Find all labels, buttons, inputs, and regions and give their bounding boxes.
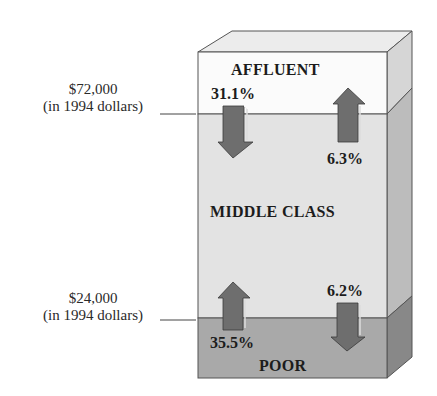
- threshold-amount: $24,000: [18, 290, 168, 307]
- flow-pct-poor-to-middle: 35.5%: [210, 334, 254, 352]
- threshold-amount: $72,000: [18, 81, 168, 98]
- threshold-label-24000: $24,000 (in 1994 dollars): [18, 290, 168, 324]
- threshold-note: (in 1994 dollars): [18, 98, 168, 115]
- side-middle: [387, 88, 412, 318]
- band-title-poor: POOR: [259, 357, 306, 375]
- threshold-label-72000: $72,000 (in 1994 dollars): [18, 81, 168, 115]
- band-title-middle-class: MIDDLE CLASS: [210, 203, 335, 221]
- flow-pct-middle-to-poor: 6.2%: [327, 282, 363, 300]
- flow-pct-affluent-to-middle: 31.1%: [211, 85, 255, 103]
- threshold-note: (in 1994 dollars): [18, 307, 168, 324]
- flow-pct-middle-to-affluent: 6.3%: [327, 150, 363, 168]
- box-top-face: [198, 31, 412, 52]
- band-title-affluent: AFFLUENT: [231, 61, 320, 79]
